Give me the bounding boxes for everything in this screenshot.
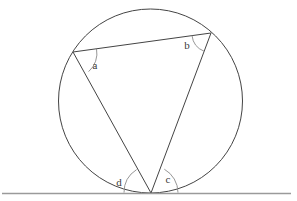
chord-b-apex-segment: [151, 33, 211, 193]
angle-arc-b: [192, 36, 204, 52]
angle-label-d: d: [116, 176, 122, 188]
angle-label-a: a: [93, 59, 98, 71]
main-circle: [59, 9, 243, 193]
circle-geometry-diagram: a b c d: [0, 0, 297, 201]
chord-a-apex-segment: [73, 52, 151, 193]
chord-ab-segment: [73, 33, 211, 52]
angle-label-b: b: [184, 39, 190, 51]
geometry-canvas: a b c d: [0, 0, 297, 201]
angle-label-c: c: [166, 173, 171, 185]
